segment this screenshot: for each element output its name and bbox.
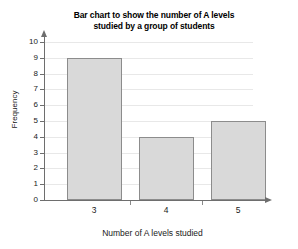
y-axis-tick-label-text: 10 (12, 37, 38, 46)
y-axis-tick-label: 5 (8, 116, 38, 126)
chart-title-line-1: Bar chart to show the number of A levels (44, 10, 264, 21)
y-axis-tick (40, 89, 45, 90)
y-axis-tick-label: 6 (8, 100, 38, 110)
y-axis-tick-label: 10 (8, 37, 38, 47)
y-axis-tick (40, 121, 45, 122)
y-axis-tick-label-text: 4 (12, 132, 38, 141)
bar (139, 137, 194, 200)
y-axis-tick (40, 137, 45, 138)
y-axis-tick-label: 0 (8, 195, 38, 205)
y-axis-tick (40, 200, 45, 201)
bar (67, 58, 122, 200)
y-axis-tick (40, 153, 45, 154)
y-axis-tick-label: 4 (8, 132, 38, 142)
y-axis-tick-label: 1 (8, 179, 38, 189)
y-axis-tick (40, 184, 45, 185)
y-axis-tick-label-text: 7 (12, 84, 38, 93)
chart-title: Bar chart to show the number of A levels… (44, 10, 264, 32)
y-axis-tick-label-text: 3 (12, 148, 38, 157)
bar (211, 121, 266, 200)
y-axis-tick-label-text: 8 (12, 69, 38, 78)
y-axis-tick-label-text: 0 (12, 195, 38, 204)
y-axis-tick-label-text: 9 (12, 53, 38, 62)
y-axis-tick-label: 3 (8, 148, 38, 158)
chart-title-line-2: studied by a group of students (44, 21, 264, 32)
y-axis-arrowhead-icon (41, 30, 47, 37)
plot-area (45, 42, 260, 200)
y-axis-line (44, 36, 45, 201)
x-axis-tick-label: 3 (79, 205, 109, 215)
y-axis-tick (40, 58, 45, 59)
y-axis-tick-label-text: 2 (12, 163, 38, 172)
y-axis-tick-label: 2 (8, 163, 38, 173)
x-axis-tick (130, 201, 131, 205)
y-axis-tick (40, 74, 45, 75)
bar-chart-figure: Bar chart to show the number of A levels… (0, 0, 298, 249)
y-axis-tick (40, 42, 45, 43)
y-axis-tick-label-text: 1 (12, 179, 38, 188)
y-axis-tick-label: 9 (8, 53, 38, 63)
x-axis-line (44, 200, 267, 201)
y-axis-tick (40, 105, 45, 106)
y-axis-tick-label-text: 6 (12, 100, 38, 109)
y-axis-tick-label: 7 (8, 84, 38, 94)
x-axis-tick (202, 201, 203, 205)
y-axis-tick-label-text: 5 (12, 116, 38, 125)
gridline (45, 42, 253, 43)
y-axis-tick-label: 8 (8, 69, 38, 79)
y-axis-tick (40, 168, 45, 169)
x-axis-title: Number of A levels studied (45, 228, 260, 238)
x-axis-tick-label: 4 (151, 205, 181, 215)
x-axis-tick-label: 5 (223, 205, 253, 215)
x-axis-arrowhead-icon (265, 197, 272, 203)
